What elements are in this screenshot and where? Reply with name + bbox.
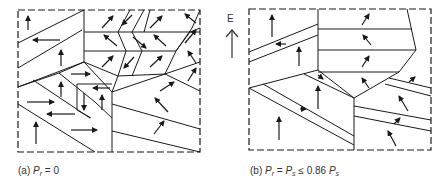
- domain-wall: [118, 10, 130, 76]
- caption-b-prefix: (b): [250, 165, 265, 176]
- domain-wall: [165, 74, 200, 91]
- caption-a-prefix: (a): [18, 165, 33, 176]
- panel-b-poled-domains: [249, 9, 431, 150]
- domain-wall: [249, 24, 318, 52]
- polarization-arrow-icon: [102, 56, 113, 67]
- domain-wall: [132, 10, 144, 76]
- domain-wall: [18, 104, 95, 152]
- polarization-arrow-icon: [363, 35, 371, 45]
- domain-wall: [59, 73, 112, 118]
- polarization-arrow-icon: [124, 57, 134, 68]
- polarization-arrow-icon: [160, 82, 174, 91]
- electric-field-arrow-icon: [226, 30, 238, 58]
- caption-panel-b: (b) Pr = Ps ≤ 0.86 Ps: [250, 165, 339, 177]
- domain-wall: [304, 74, 354, 98]
- caption-b-sub3: s: [336, 170, 340, 177]
- polarization-arrow-icon: [102, 16, 113, 28]
- polarization-arrow-icon: [188, 68, 196, 81]
- polarization-arrow-icon: [318, 75, 323, 79]
- domain-wall: [84, 10, 200, 76]
- domain-wall: [18, 30, 82, 68]
- polarization-arrow-icon: [154, 35, 166, 46]
- polarization-arrow-icon: [150, 16, 162, 28]
- polarization-arrow-icon: [399, 96, 408, 111]
- caption-a-rest: = 0: [42, 165, 59, 176]
- domain-wall: [249, 88, 354, 145]
- domain-wall: [385, 84, 431, 96]
- polarization-arrow-icon: [362, 56, 369, 67]
- caption-b-var: P: [265, 165, 272, 176]
- polarization-arrow-icon: [362, 78, 369, 88]
- polarization-arrow-icon: [155, 98, 168, 112]
- domain-wall: [112, 104, 200, 129]
- domain-wall: [144, 10, 150, 32]
- domain-wall: [249, 35, 318, 62]
- domain-wall: [77, 110, 91, 118]
- panel-a-dashed-border: [18, 10, 200, 152]
- polarization-arrow-icon: [185, 14, 196, 23]
- caption-b-var3: P: [329, 165, 336, 176]
- polarization-arrow-icon: [154, 121, 164, 134]
- electric-field-label: E: [227, 13, 234, 24]
- panel-b-dashed-border: [249, 9, 431, 150]
- domain-figure: [0, 0, 447, 185]
- polarization-arrow-icon: [388, 131, 396, 146]
- caption-a-var: P: [33, 165, 40, 176]
- caption-panel-a: (a) Pr = 0: [18, 165, 59, 177]
- domain-wall: [249, 70, 318, 88]
- polarization-arrow-icon: [150, 56, 162, 67]
- domain-wall: [112, 76, 118, 92]
- panel-a-depoled-domains: [18, 10, 200, 152]
- caption-b-rest: ≤ 0.86: [296, 165, 329, 176]
- polarization-arrow-icon: [362, 14, 369, 25]
- polarization-arrow-icon: [394, 118, 400, 124]
- polarization-arrow-icon: [409, 77, 415, 82]
- caption-b-mid: =: [274, 165, 285, 176]
- polarization-arrow-icon: [188, 51, 196, 63]
- polarization-arrow-icon: [104, 35, 117, 46]
- domain-wall: [112, 131, 200, 152]
